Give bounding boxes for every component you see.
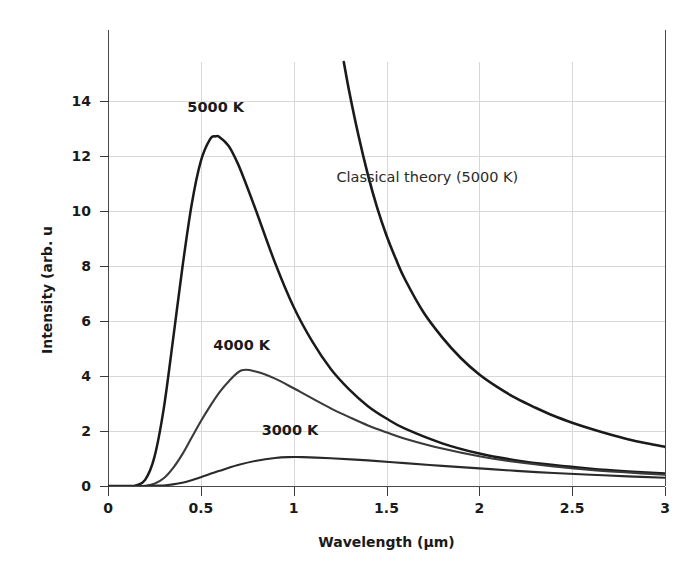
x-tick-label-1.5: 1.5 <box>374 500 399 516</box>
y-tick-label-8: 8 <box>81 258 91 274</box>
label-3000k: 3000 K <box>262 422 319 438</box>
y-axis-title: Intensity (arb. u <box>39 226 55 354</box>
blackbody-radiation-chart: 00.511.522.5302468101214 5000 K4000 K300… <box>0 0 693 580</box>
y-tick-label-10: 10 <box>72 203 92 219</box>
y-tick-label-0: 0 <box>81 478 91 494</box>
x-axis-title: Wavelength (µm) <box>318 534 455 550</box>
x-tick-label-2.5: 2.5 <box>560 500 585 516</box>
x-tick-label-3: 3 <box>660 500 670 516</box>
chart-canvas: 00.511.522.5302468101214 5000 K4000 K300… <box>0 0 693 580</box>
x-tick-label-0: 0 <box>103 500 113 516</box>
y-tick-label-2: 2 <box>81 423 91 439</box>
y-tick-label-6: 6 <box>81 313 91 329</box>
x-tick-label-0.5: 0.5 <box>188 500 213 516</box>
label-4000k: 4000 K <box>213 337 270 353</box>
x-tick-label-1: 1 <box>289 500 299 516</box>
label-5000k: 5000 K <box>187 99 244 115</box>
chart-background <box>0 0 693 580</box>
label-classical: Classical theory (5000 K) <box>336 169 518 185</box>
y-tick-label-12: 12 <box>72 148 91 164</box>
x-tick-label-2: 2 <box>474 500 484 516</box>
y-tick-label-4: 4 <box>81 368 91 384</box>
y-tick-label-14: 14 <box>72 93 92 109</box>
